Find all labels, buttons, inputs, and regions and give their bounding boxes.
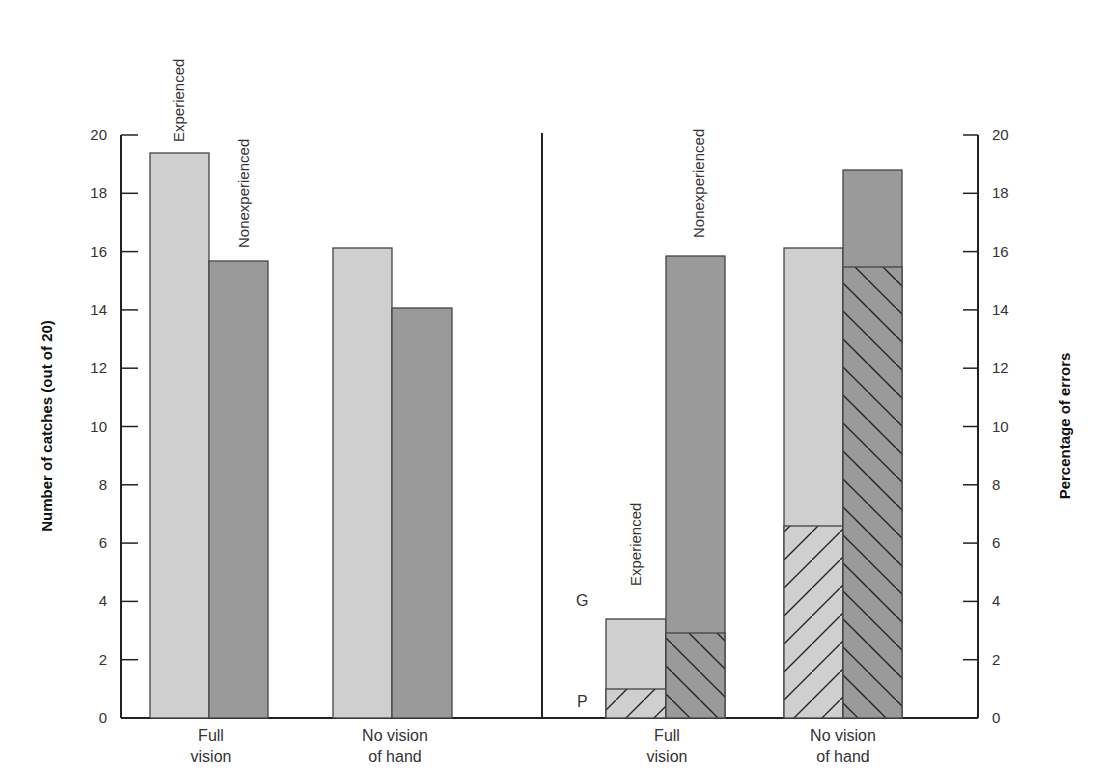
right-tick-label: 18 — [992, 184, 1009, 201]
left-tick-label: 18 — [90, 184, 107, 201]
left-tick-label: 0 — [99, 709, 107, 726]
right-bars — [606, 170, 902, 718]
right-tick-label: 10 — [992, 418, 1009, 435]
left-bars — [150, 153, 452, 718]
left-tick-label: 14 — [90, 301, 107, 318]
bar-novision-nonexperienced-p — [843, 267, 902, 718]
label-g: G — [576, 592, 588, 609]
right-tick-label: 16 — [992, 243, 1009, 260]
cat-left-full-1: Full — [198, 727, 224, 744]
right-tick-label: 8 — [992, 476, 1000, 493]
left-tick-label: 12 — [90, 359, 107, 376]
left-tick-label: 20 — [90, 126, 107, 143]
left-tick-label: 8 — [99, 476, 107, 493]
left-tick-label: 16 — [90, 243, 107, 260]
left-tick-label: 2 — [99, 651, 107, 668]
bar-full-nonexperienced-p — [666, 633, 725, 718]
cat-left-novision-1: No vision — [362, 727, 428, 744]
label-nonexperienced-right: Nonexperienced — [690, 129, 707, 238]
chart-canvas: 02468101214161820 Number of catches (out… — [0, 0, 1094, 777]
right-tick-label: 2 — [992, 651, 1000, 668]
label-experienced-right: Experienced — [627, 503, 644, 586]
right-tick-label: 14 — [992, 301, 1009, 318]
right-tick-label: 12 — [992, 359, 1009, 376]
label-nonexperienced-left: Nonexperienced — [235, 139, 252, 248]
right-tick-label: 20 — [992, 126, 1009, 143]
left-y-axis: 02468101214161820 — [90, 126, 138, 726]
bar-full-nonexperienced — [209, 261, 268, 718]
right-tick-label: 4 — [992, 592, 1000, 609]
bar-novision-experienced-p — [784, 526, 843, 718]
right-tick-label: 6 — [992, 534, 1000, 551]
right-y-axis-label: Percentage of errors — [1056, 353, 1073, 500]
right-y-axis: 02468101214161820 — [963, 126, 1009, 726]
bar-full-experienced — [150, 153, 209, 718]
cat-left-full-2: vision — [191, 748, 232, 765]
left-y-axis-label: Number of catches (out of 20) — [38, 320, 55, 532]
cat-right-novision-1: No vision — [810, 727, 876, 744]
bar-novision-experienced — [333, 248, 392, 718]
bar-novision-nonexperienced — [392, 308, 452, 718]
label-experienced-left: Experienced — [170, 59, 187, 142]
bar-full-experienced-p — [606, 689, 666, 718]
left-tick-label: 4 — [99, 592, 107, 609]
right-tick-label: 0 — [992, 709, 1000, 726]
cat-right-full-1: Full — [654, 727, 680, 744]
left-tick-label: 6 — [99, 534, 107, 551]
cat-right-novision-2: of hand — [816, 748, 869, 765]
cat-left-novision-2: of hand — [368, 748, 421, 765]
left-tick-label: 10 — [90, 418, 107, 435]
label-p: P — [577, 693, 588, 710]
cat-right-full-2: vision — [647, 748, 688, 765]
